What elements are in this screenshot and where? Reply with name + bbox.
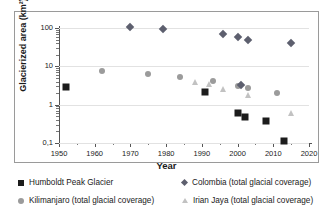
y-gridline [59, 105, 309, 106]
glacier-area-scatter-figure: Glacierized area (km²) 0,1110100 1950196… [0, 0, 333, 214]
x-axis-title: Year [0, 160, 333, 171]
data-point-square [281, 138, 288, 145]
data-point-square [63, 83, 70, 90]
y-tick-label: 100 [40, 24, 53, 32]
legend-item: Colombia (total glacial coverage) [182, 178, 311, 187]
data-point-diamond [233, 32, 241, 40]
y-tick-label: 0,1 [43, 139, 53, 147]
data-point-circle [245, 85, 251, 91]
x-tick-label: 2000 [229, 149, 246, 158]
legend-item: Humboldt Peak Glacier [18, 178, 113, 187]
chart-legend: Humboldt Peak GlacierKilimanjaro (total … [14, 176, 324, 210]
legend-item: Irian Jaya (total glacial coverage) [182, 196, 313, 205]
x-tick-label: 1950 [51, 149, 68, 158]
data-point-circle [274, 90, 280, 96]
y-gridline [59, 143, 309, 144]
x-tick-label: 1990 [194, 149, 211, 158]
legend-item: Kilimanjaro (total glacial coverage) [18, 196, 154, 205]
data-point-triangle [206, 81, 212, 87]
legend-item-label: Colombia (total glacial coverage) [192, 178, 311, 187]
data-point-square [263, 118, 270, 125]
data-point-diamond [287, 39, 295, 47]
x-major-tick [309, 143, 310, 147]
data-point-triangle [288, 110, 294, 116]
data-point-square [241, 114, 248, 121]
legend-item-label: Kilimanjaro (total glacial coverage) [29, 196, 154, 205]
x-tick-label: 2020 [301, 149, 318, 158]
data-point-circle [177, 74, 183, 80]
data-point-square [202, 88, 209, 95]
legend-item-label: Humboldt Peak Glacier [29, 178, 113, 187]
square-marker-icon [18, 180, 24, 186]
circle-marker-icon [18, 198, 24, 204]
triangle-marker-icon [182, 198, 188, 203]
data-point-triangle [220, 86, 226, 92]
x-tick-label: 1960 [86, 149, 103, 158]
y-gridline [59, 28, 309, 29]
x-tick-label: 1980 [158, 149, 175, 158]
x-tick-label: 1970 [122, 149, 139, 158]
data-point-circle [145, 71, 151, 77]
data-point-circle [99, 68, 105, 74]
y-tick-label: 10 [45, 62, 53, 70]
data-point-square [234, 110, 241, 117]
data-point-diamond [244, 35, 252, 43]
legend-item-label: Irian Jaya (total glacial coverage) [193, 196, 313, 205]
plot-area [59, 28, 309, 143]
x-tick-label: 2010 [265, 149, 282, 158]
data-point-diamond [219, 30, 227, 38]
y-gridline [59, 66, 309, 67]
y-tick-label: 1 [49, 101, 53, 109]
diamond-marker-icon [181, 179, 188, 186]
y-axis-tick-labels: 0,1110100 [20, 0, 53, 152]
data-point-triangle [192, 79, 198, 85]
data-point-triangle [245, 92, 251, 98]
